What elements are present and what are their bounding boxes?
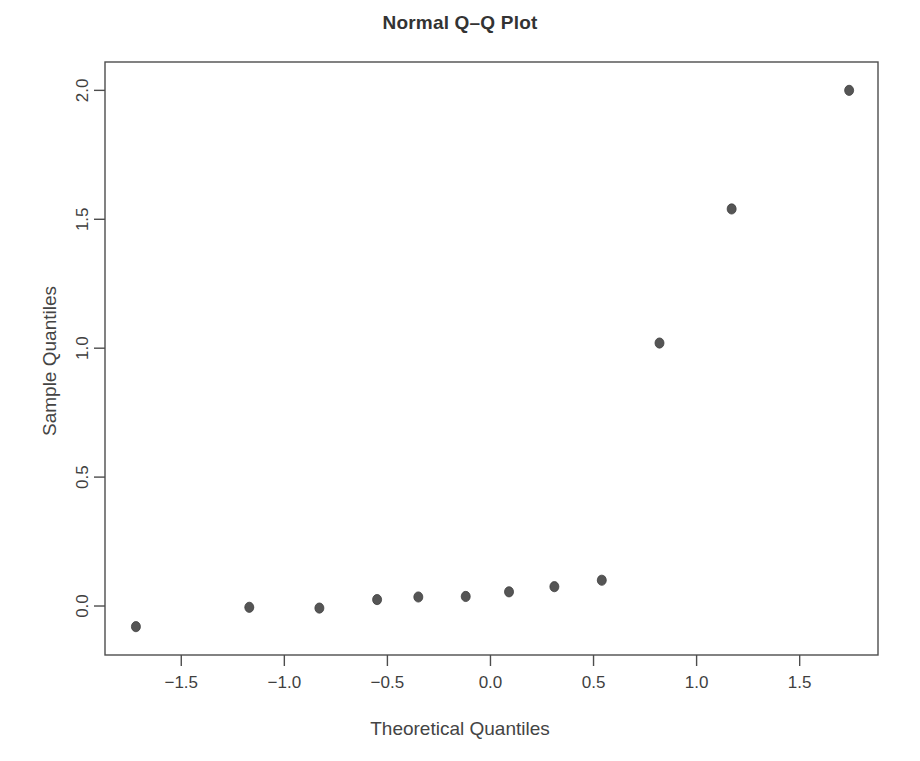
data-point bbox=[315, 603, 324, 613]
data-point bbox=[461, 591, 470, 601]
y-tick-label: 0.5 bbox=[74, 465, 93, 489]
axis-frame bbox=[105, 62, 878, 655]
plot-canvas: −1.5−1.0−0.50.00.51.01.5 0.00.51.01.52.0 bbox=[0, 0, 920, 761]
x-axis-title: Theoretical Quantiles bbox=[0, 718, 920, 740]
data-point bbox=[505, 587, 514, 597]
x-tick-label: 0.0 bbox=[479, 673, 503, 692]
x-tick-label: 1.5 bbox=[788, 673, 812, 692]
x-tick-label: −1.5 bbox=[164, 673, 198, 692]
y-axis-title: Sample Quantiles bbox=[39, 141, 61, 581]
y-tick-label: 1.0 bbox=[74, 336, 93, 360]
data-point bbox=[655, 338, 664, 348]
qq-plot-figure: Normal Q–Q Plot −1.5−1.0−0.50.00.51.01.5… bbox=[0, 0, 920, 761]
data-point bbox=[414, 592, 423, 602]
y-tick-label: 0.0 bbox=[74, 594, 93, 618]
data-point bbox=[131, 622, 140, 632]
y-tick-label: 2.0 bbox=[74, 79, 93, 103]
data-point bbox=[373, 594, 382, 604]
x-tick-label: 1.0 bbox=[685, 673, 709, 692]
data-point bbox=[550, 582, 559, 592]
data-point bbox=[727, 204, 736, 214]
y-tick-label: 1.5 bbox=[74, 207, 93, 231]
plot-border bbox=[105, 62, 878, 655]
y-axis-ticks: 0.00.51.01.52.0 bbox=[74, 79, 106, 618]
x-tick-label: 0.5 bbox=[582, 673, 606, 692]
x-tick-label: −0.5 bbox=[371, 673, 405, 692]
data-point bbox=[597, 575, 606, 585]
data-point bbox=[245, 602, 254, 612]
data-point bbox=[845, 85, 854, 95]
x-tick-label: −1.0 bbox=[268, 673, 302, 692]
scatter-points bbox=[131, 85, 853, 631]
x-axis-ticks: −1.5−1.0−0.50.00.51.01.5 bbox=[164, 655, 811, 692]
